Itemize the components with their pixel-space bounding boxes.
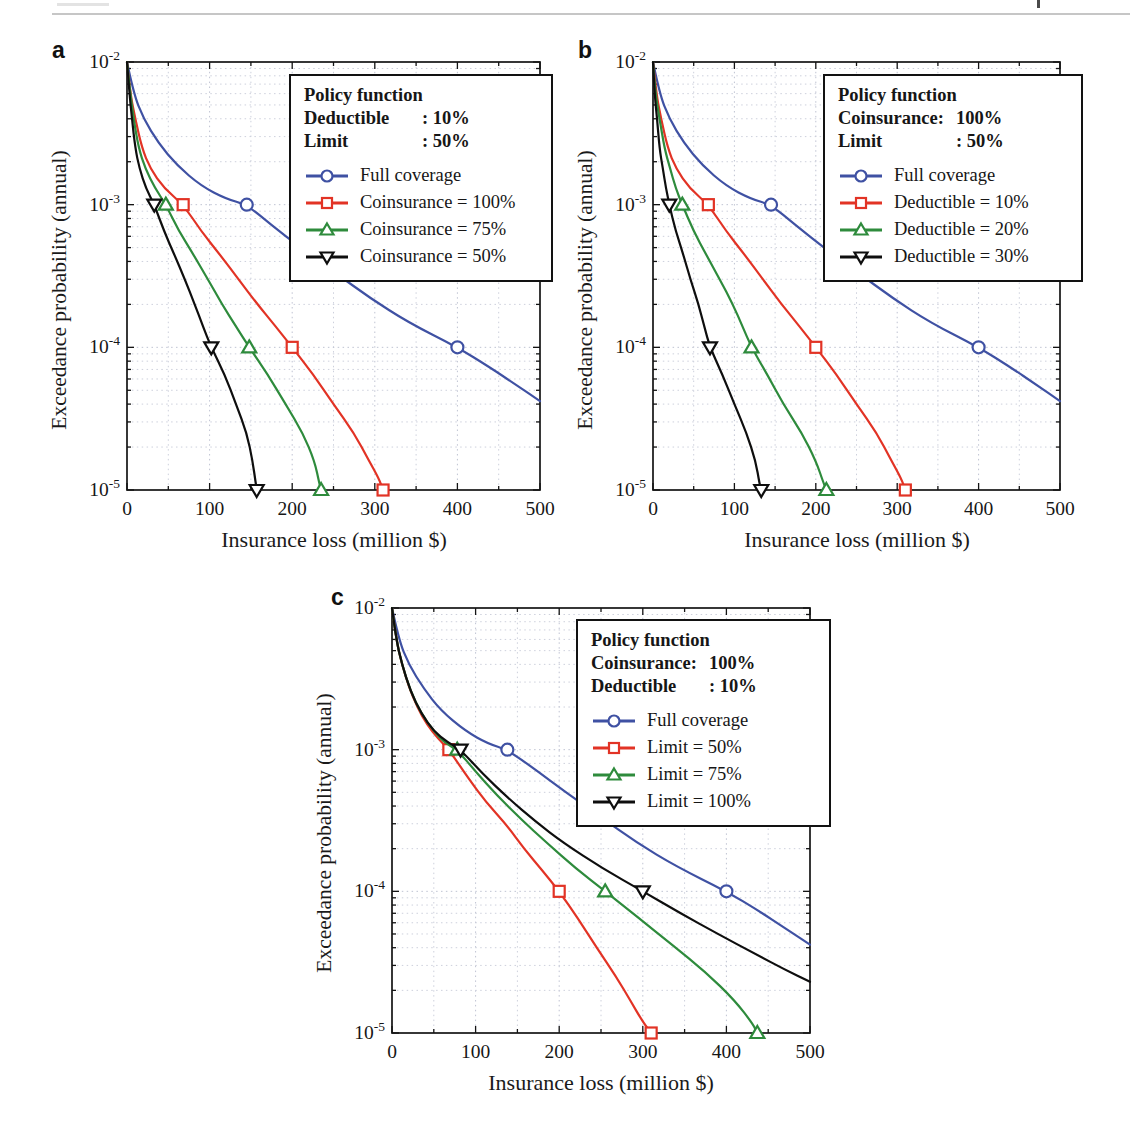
- marker-circle: [241, 199, 253, 211]
- legend-entry: Full coverage: [591, 707, 819, 734]
- marker-square: [322, 198, 332, 208]
- panel-b-legend: Policy function Coinsurance: 100% Limit …: [823, 74, 1083, 282]
- legend-entry-label: Full coverage: [647, 710, 748, 731]
- x-tick-label: 0: [122, 498, 132, 519]
- legend-marker-full-coverage: [304, 167, 350, 185]
- marker-square: [178, 199, 189, 210]
- marker-triangle-up: [819, 483, 833, 495]
- legend-entry: Deductible = 20%: [838, 216, 1071, 243]
- marker-square: [646, 1028, 657, 1039]
- legend-entry: Limit = 75%: [591, 761, 819, 788]
- x-tick-label: 300: [883, 498, 912, 519]
- marker-circle: [973, 341, 985, 353]
- legend-marker-deductible-20: [838, 221, 884, 239]
- legend-policy-row: Coinsurance: 100%: [838, 107, 1071, 130]
- legend-entry-label: Full coverage: [894, 165, 995, 186]
- x-tick-label: 100: [720, 498, 749, 519]
- x-tick-label: 0: [387, 1041, 397, 1062]
- x-tick-label: 500: [1045, 498, 1074, 519]
- x-tick-label: 200: [545, 1041, 574, 1062]
- legend-entry-label: Full coverage: [360, 165, 461, 186]
- legend-policy-key: Coinsurance:: [838, 107, 956, 130]
- legend-title: Policy function: [838, 84, 1071, 107]
- legend-entry-label: Limit = 75%: [647, 764, 742, 785]
- x-tick-label: 200: [278, 498, 307, 519]
- y-tick-label: 10-3: [615, 191, 646, 215]
- panel-c-y-axis-label: Exceedance probability (annual): [312, 693, 337, 972]
- legend-marker-coinsurance-100: [304, 194, 350, 212]
- legend-policy-key: Limit: [838, 130, 956, 153]
- panel-b-letter: b: [578, 37, 592, 64]
- x-tick-label: 500: [525, 498, 554, 519]
- legend-policy-value: 100%: [956, 107, 1071, 130]
- y-tick-label: 10-4: [615, 333, 646, 357]
- marker-circle: [765, 199, 777, 211]
- panel-a-letter: a: [52, 37, 65, 64]
- y-tick-label: 10-5: [89, 476, 120, 500]
- legend-title: Policy function: [304, 84, 541, 107]
- legend-entry: Deductible = 10%: [838, 189, 1071, 216]
- marker-circle: [609, 715, 620, 726]
- marker-triangle-up: [314, 483, 328, 495]
- legend-policy-value: : 10%: [422, 107, 541, 130]
- legend-title: Policy function: [591, 629, 819, 652]
- legend-marker-full-coverage: [838, 167, 884, 185]
- legend-policy-key: Coinsurance:: [591, 652, 709, 675]
- legend-policy-row: Coinsurance: 100%: [591, 652, 819, 675]
- x-tick-label: 0: [648, 498, 658, 519]
- marker-triangle-down: [703, 342, 717, 354]
- x-tick-label: 300: [360, 498, 389, 519]
- x-tick-label: 100: [461, 1041, 490, 1062]
- scanned-figure-page: 010020030040050010-210-310-410-501002003…: [0, 0, 1135, 1127]
- legend-entry: Coinsurance = 75%: [304, 216, 541, 243]
- legend-marker-limit-50: [591, 739, 637, 757]
- marker-triangle-up: [744, 340, 758, 352]
- y-tick-label: 10-2: [615, 48, 646, 72]
- legend-entry: Coinsurance = 50%: [304, 243, 541, 270]
- legend-marker-coinsurance-50: [304, 248, 350, 266]
- marker-triangle-up: [750, 1026, 764, 1038]
- legend-entry: Full coverage: [838, 162, 1071, 189]
- legend-policy-row: Deductible : 10%: [304, 107, 541, 130]
- panel-c-x-axis-label: Insurance loss (million $): [488, 1070, 713, 1096]
- legend-entry: Limit = 100%: [591, 788, 819, 815]
- curve-deductible-20: [653, 62, 826, 490]
- marker-square: [810, 342, 821, 353]
- panel-a-y-axis-label: Exceedance probability (annual): [47, 150, 72, 429]
- x-tick-label: 400: [712, 1041, 741, 1062]
- marker-triangle-up: [242, 340, 256, 352]
- curve-deductible-30: [653, 62, 761, 490]
- marker-square: [609, 743, 619, 753]
- legend-entry-label: Limit = 100%: [647, 791, 751, 812]
- panel-a-legend: Policy function Deductible : 10% Limit :…: [289, 74, 553, 282]
- marker-triangle-down: [754, 485, 768, 497]
- legend-entry-label: Limit = 50%: [647, 737, 742, 758]
- legend-policy-key: Deductible: [591, 675, 709, 698]
- y-tick-label: 10-2: [89, 48, 120, 72]
- marker-square: [287, 342, 298, 353]
- y-tick-label: 10-5: [615, 476, 646, 500]
- y-tick-label: 10-3: [89, 191, 120, 215]
- y-tick-label: 10-2: [354, 594, 385, 618]
- legend-entry: Full coverage: [304, 162, 541, 189]
- x-tick-label: 400: [443, 498, 472, 519]
- x-tick-label: 300: [628, 1041, 657, 1062]
- x-tick-label: 500: [795, 1041, 824, 1062]
- marker-square: [554, 886, 565, 897]
- legend-entry: Limit = 50%: [591, 734, 819, 761]
- y-tick-label: 10-4: [354, 877, 385, 901]
- legend-marker-coinsurance-75: [304, 221, 350, 239]
- marker-square: [856, 198, 866, 208]
- marker-triangle-down: [250, 485, 264, 497]
- y-tick-label: 10-4: [89, 333, 120, 357]
- legend-entry-label: Deductible = 30%: [894, 246, 1029, 267]
- legend-entry-label: Coinsurance = 50%: [360, 246, 506, 267]
- legend-entry: Coinsurance = 100%: [304, 189, 541, 216]
- marker-triangle-down: [204, 342, 218, 354]
- panel-b-y-axis-label: Exceedance probability (annual): [573, 150, 598, 429]
- legend-policy-value: : 10%: [709, 675, 819, 698]
- legend-entry-label: Deductible = 20%: [894, 219, 1029, 240]
- legend-marker-limit-75: [591, 766, 637, 784]
- marker-circle: [856, 170, 867, 181]
- legend-marker-limit-100: [591, 793, 637, 811]
